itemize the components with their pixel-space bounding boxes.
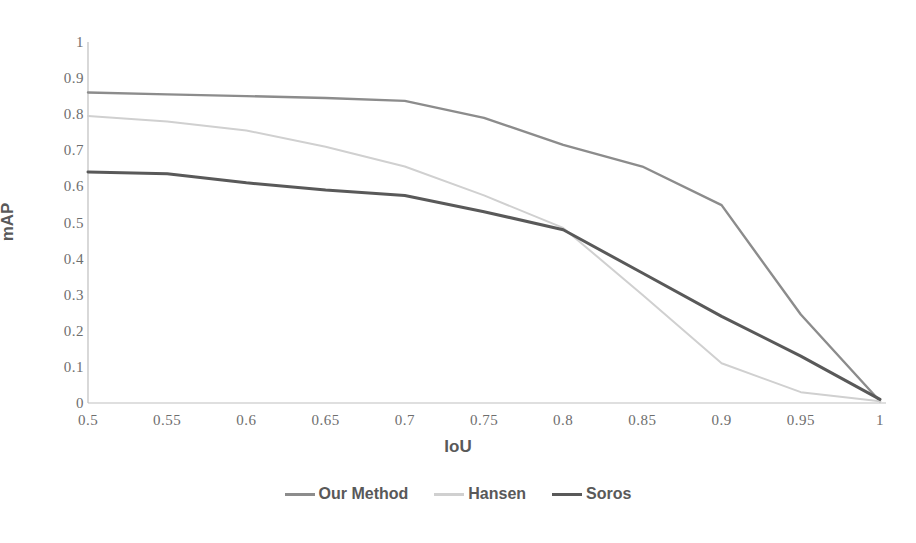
chart-legend: Our MethodHansenSoros [0, 485, 916, 503]
y-axis-tick-label: 0 [22, 395, 84, 412]
y-axis-tick-label: 0.4 [22, 250, 84, 267]
legend-item-our-method[interactable]: Our Method [285, 485, 409, 503]
plot-area [0, 0, 916, 543]
x-axis-tick-labels: 0.50.550.60.650.70.750.80.850.90.951 [0, 412, 916, 434]
legend-swatch-icon [285, 493, 315, 496]
y-axis-tick-label: 0.5 [22, 214, 84, 231]
x-axis-tick-label: 0.8 [553, 412, 573, 429]
x-axis-tick-label: 0.9 [711, 412, 731, 429]
x-axis-tick-label: 0.7 [395, 412, 415, 429]
legend-item-soros[interactable]: Soros [552, 485, 631, 503]
legend-label: Hansen [468, 485, 526, 503]
y-axis-tick-label: 0.8 [22, 106, 84, 123]
y-axis-tick-label: 0.9 [22, 70, 84, 87]
legend-label: Soros [586, 485, 631, 503]
series-lines [88, 93, 880, 402]
y-axis-tick-label: 0.2 [22, 322, 84, 339]
x-axis-title: IoU [0, 437, 916, 457]
legend-swatch-icon [552, 493, 582, 496]
legend-swatch-icon [434, 493, 464, 496]
y-axis-tick-label: 0.6 [22, 178, 84, 195]
legend-item-hansen[interactable]: Hansen [434, 485, 526, 503]
x-axis-tick-label: 0.95 [787, 412, 815, 429]
x-axis-tick-label: 0.85 [628, 412, 656, 429]
x-axis-tick-label: 0.75 [470, 412, 498, 429]
x-axis-tick-label: 0.5 [78, 412, 98, 429]
y-axis-tick-label: 0.7 [22, 142, 84, 159]
legend-label: Our Method [319, 485, 409, 503]
y-axis-tick-label: 0.3 [22, 286, 84, 303]
x-axis-tick-label: 0.65 [311, 412, 339, 429]
y-axis-tick-label: 1 [22, 34, 84, 51]
x-axis-tick-label: 0.6 [236, 412, 256, 429]
y-axis-title: mAP [0, 203, 18, 242]
series-line-soros [88, 172, 880, 399]
series-line-our-method [88, 93, 880, 402]
line-chart: 10.90.80.70.60.50.40.30.20.10 0.50.550.6… [0, 0, 916, 543]
x-axis-tick-label: 0.55 [153, 412, 181, 429]
x-axis-tick-label: 1 [876, 412, 884, 429]
y-axis-tick-label: 0.1 [22, 358, 84, 375]
